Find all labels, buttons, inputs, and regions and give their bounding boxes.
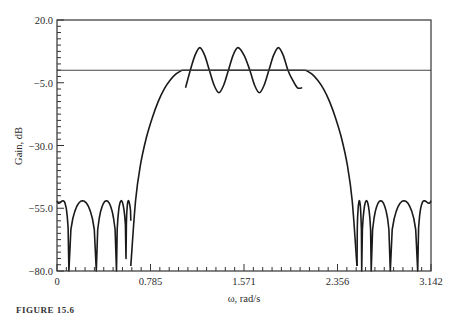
x-tick-label: 1.571 <box>232 276 256 287</box>
y-tick-label: −55.0 <box>29 203 53 214</box>
y-tick-label: 20.0 <box>35 15 53 26</box>
x-tick-label: 0.785 <box>139 276 163 287</box>
x-tick-labels: 00.7851.5712.3563.142 <box>54 276 442 287</box>
x-tick-label: 2.356 <box>326 276 350 287</box>
y-axis-label: Gain, dB <box>13 127 24 165</box>
x-tick-label: 0 <box>54 276 59 287</box>
y-tick-label: −80.0 <box>29 266 53 277</box>
x-tick-label: 3.142 <box>419 276 443 287</box>
envelope-rising <box>131 70 182 266</box>
stopband-lobes <box>57 201 131 271</box>
y-tick-labels: 20.0−5.0−30.0−55.0−80.0 <box>29 15 53 277</box>
gain-plot: 20.0−5.0−30.0−55.0−80.0 00.7851.5712.356… <box>0 0 457 314</box>
plot-frame <box>57 20 431 271</box>
y-tick-label: −30.0 <box>29 141 53 152</box>
figure-caption: FIGURE 15.6 <box>16 305 75 314</box>
stopband-lobes <box>357 201 431 271</box>
axis-ticks <box>57 20 431 271</box>
x-axis-label: ω, rad/s <box>228 293 261 304</box>
gain-curves <box>57 48 431 271</box>
y-tick-label: −5.0 <box>34 78 53 89</box>
envelope-falling <box>306 70 357 266</box>
